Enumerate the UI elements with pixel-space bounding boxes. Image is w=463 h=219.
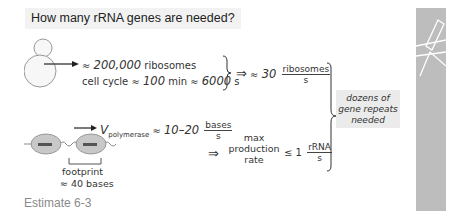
yeast-cell-icon [24,34,84,92]
rate-fraction: ribosomes s [282,64,331,85]
ribosome-count: ≈ 200,000 ribosomes [82,58,196,72]
polymerase-velocity: Vpolymerase ≈ 10–20 bases s [100,120,232,141]
footprint-value: ≈ 40 bases [60,178,114,189]
side-strip [416,8,446,211]
conclusion-box: dozens of gene repeats needed [336,90,400,128]
ribosome-rate: ⇒ ≈ 30 ribosomes s [236,64,330,85]
implies-arrow: ⇒ [208,146,219,161]
max-production-rate-value: ≤ 1 rRNA s [284,142,332,163]
footprint-label: footprint [62,166,103,177]
direction-arrow-icon [74,124,98,132]
small-brace [222,55,232,91]
question-title: How many rRNA genes are needed? [25,8,241,29]
footprint-bracket [68,158,104,166]
cell-cycle-duration: cell cycle ≈ 100 min ≈ 6000 s [82,74,239,88]
figure-caption: Estimate 6-3 [24,196,91,210]
pencil-icon [416,16,446,76]
max-production-rate-label: max production rate [226,132,282,165]
